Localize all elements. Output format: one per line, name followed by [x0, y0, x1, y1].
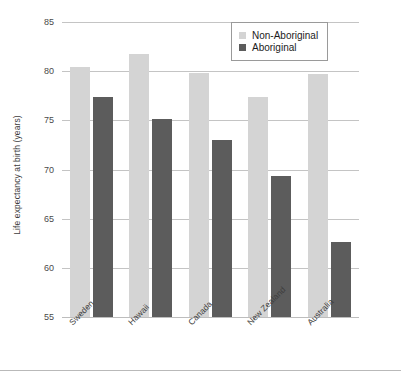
y-tick-70: 70 [24, 165, 54, 175]
chart-frame: Life expectancy at birth (years) 85 80 7… [0, 0, 401, 390]
bar [152, 119, 172, 317]
frame-bottom-rule [0, 370, 401, 371]
legend-item-non-aboriginal: Non-Aboriginal [239, 30, 318, 41]
y-tick-75: 75 [24, 115, 54, 125]
bar [212, 140, 232, 317]
y-tick-80: 80 [24, 66, 54, 76]
bar-group [70, 22, 113, 317]
y-tick-55: 55 [24, 312, 54, 322]
bar [308, 74, 328, 317]
bar-group [129, 22, 172, 317]
y-axis-tick-labels: 85 80 75 70 65 60 55 [22, 22, 54, 317]
bars-layer [62, 22, 359, 317]
plot-area [62, 22, 359, 317]
bar [248, 97, 268, 317]
bar-group [189, 22, 232, 317]
legend-label-non-aboriginal: Non-Aboriginal [252, 30, 318, 41]
legend-item-aboriginal: Aboriginal [239, 42, 318, 53]
bar [189, 73, 209, 317]
legend-label-aboriginal: Aboriginal [252, 42, 296, 53]
legend: Non-Aboriginal Aboriginal [231, 22, 328, 61]
y-axis-title: Life expectancy at birth (years) [12, 80, 22, 270]
bar-group [248, 22, 291, 317]
bar [93, 97, 113, 317]
y-tick-85: 85 [24, 17, 54, 27]
bar [70, 67, 90, 317]
y-tick-65: 65 [24, 214, 54, 224]
y-tick-60: 60 [24, 263, 54, 273]
bar [331, 242, 351, 317]
legend-swatch-icon-aboriginal [239, 44, 246, 51]
bar-group [308, 22, 351, 317]
x-axis-tick-labels: SwedenHawaiiCanadaNew ZealandAustralia [62, 320, 359, 380]
bar [129, 54, 149, 317]
legend-swatch-icon-non-aboriginal [239, 32, 246, 39]
